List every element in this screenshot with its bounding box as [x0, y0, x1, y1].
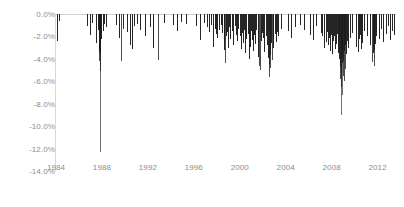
- data-spike: [90, 14, 91, 35]
- x-axis-tick-label: 2012: [369, 163, 387, 172]
- data-spike: [127, 14, 128, 32]
- data-spike: [362, 14, 363, 43]
- data-spike: [230, 14, 231, 39]
- data-spike: [181, 14, 182, 22]
- data-spike: [238, 14, 239, 29]
- data-spike: [246, 14, 247, 39]
- data-spike: [388, 14, 389, 26]
- plot-area: [56, 14, 396, 171]
- data-spike: [158, 14, 159, 60]
- x-axis-tick-label: 1996: [185, 163, 203, 172]
- data-spike: [394, 14, 395, 35]
- data-spike: [104, 14, 105, 24]
- data-spike: [173, 14, 174, 25]
- data-spike: [390, 14, 391, 40]
- data-spike: [121, 14, 122, 61]
- x-axis-tick-label: 1984: [47, 163, 65, 172]
- data-spike: [92, 14, 93, 23]
- data-spike: [367, 14, 368, 36]
- data-spike: [101, 14, 102, 39]
- x-axis-tick-label: 2004: [277, 163, 295, 172]
- x-axis-tick-label: 1992: [139, 163, 157, 172]
- data-spike: [364, 14, 365, 31]
- data-spike: [322, 14, 323, 36]
- data-spike: [383, 14, 384, 42]
- data-spike: [96, 14, 97, 43]
- data-spike: [209, 14, 210, 32]
- drawdown-chart: 0.0%-2.0%-4.0%-6.0%-8.0%-10.0%-12.0%-14.…: [0, 0, 404, 207]
- y-axis-tick-mark: [52, 103, 56, 104]
- data-spike: [213, 14, 214, 47]
- data-spike: [376, 14, 377, 32]
- data-spike: [211, 14, 212, 25]
- data-spike: [140, 14, 141, 30]
- data-spike: [207, 14, 208, 27]
- data-spike: [123, 14, 124, 29]
- data-spike: [273, 14, 274, 39]
- y-axis-tick-mark: [52, 58, 56, 59]
- data-spike: [145, 14, 146, 36]
- data-spike: [381, 14, 382, 29]
- x-axis-tick-label: 2000: [231, 163, 249, 172]
- data-spike: [392, 14, 393, 31]
- data-spike: [196, 14, 197, 26]
- data-spike: [217, 14, 218, 38]
- data-spike: [200, 14, 201, 40]
- data-spike: [356, 14, 357, 47]
- data-spike: [153, 14, 154, 48]
- y-axis-tick-mark: [52, 148, 56, 149]
- data-spike: [300, 14, 301, 25]
- data-spike: [281, 14, 282, 29]
- data-spike: [316, 14, 317, 26]
- data-spike: [106, 14, 107, 27]
- data-spike: [352, 14, 353, 33]
- data-spike: [233, 14, 234, 45]
- data-spike: [288, 14, 289, 31]
- data-spike: [386, 14, 387, 34]
- x-axis-tick-label: 1988: [93, 163, 111, 172]
- data-spike: [291, 14, 292, 38]
- data-spike: [186, 14, 187, 24]
- data-spike: [116, 14, 117, 25]
- data-spike: [313, 14, 314, 40]
- y-axis-tick-mark: [52, 36, 56, 37]
- data-spike: [150, 14, 151, 27]
- data-spike: [164, 14, 165, 23]
- data-spike: [264, 14, 265, 52]
- data-spike: [304, 14, 305, 30]
- data-spike: [348, 14, 349, 48]
- data-spike: [295, 14, 296, 27]
- data-spike: [310, 14, 311, 35]
- data-spike: [137, 14, 138, 24]
- data-spike: [370, 14, 371, 45]
- y-axis-tick-mark: [52, 14, 56, 15]
- data-spike: [87, 14, 88, 26]
- y-axis-tick-mark: [52, 126, 56, 127]
- data-spike: [222, 14, 223, 33]
- data-spike: [324, 14, 325, 48]
- data-spike: [132, 14, 133, 49]
- data-spike: [219, 14, 220, 30]
- y-axis-tick-mark: [52, 81, 56, 82]
- x-axis-tick-label: 2008: [323, 163, 341, 172]
- data-spike: [204, 14, 205, 23]
- data-spike: [177, 14, 178, 31]
- data-spike: [379, 14, 380, 39]
- data-spike: [130, 14, 131, 45]
- data-spike: [256, 14, 257, 30]
- data-spike: [278, 14, 279, 36]
- data-spike: [350, 14, 351, 38]
- data-spike: [119, 14, 120, 38]
- data-spike: [134, 14, 135, 26]
